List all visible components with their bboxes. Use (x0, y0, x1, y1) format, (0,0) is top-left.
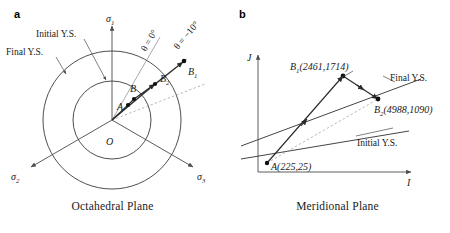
marker-point-a (265, 161, 269, 165)
octahedral-plane-diagram: σ1 σ2 σ3 O A B B1 B2 Initial Y.S. Final … (0, 0, 225, 210)
point-b1-label: B1 (188, 66, 198, 79)
initial-ys-label-a: Initial Y.S. (36, 29, 76, 39)
initial-ys-leader (84, 39, 106, 80)
final-ys-label-b: Final Y.S. (390, 73, 427, 83)
sigma-2-label: σ2 (11, 171, 20, 184)
reference-dotted-line (267, 99, 378, 163)
marker-point-b2 (153, 82, 157, 86)
i-axis-label: I (406, 177, 411, 188)
path-segment-a-b1 (267, 76, 343, 163)
j-axis-label: J (247, 52, 252, 63)
final-ys-leader (56, 57, 66, 74)
figure-container: a (0, 0, 450, 233)
path-segment-b-b2 (134, 84, 155, 99)
point-b2-label: B2 (160, 73, 170, 86)
panel-octahedral-plane: a (0, 0, 225, 233)
point-b1-coord-label: B1(2461,1714) (290, 61, 349, 74)
marker-point-b1 (182, 59, 187, 64)
marker-point-b (132, 97, 136, 101)
initial-ys-label-b: Initial Y.S. (357, 138, 397, 148)
caption-octahedral-plane: Octahedral Plane (0, 200, 225, 212)
theta-minus-ten-ray (112, 84, 205, 120)
theta-minus-ten-label: θ = −10° (172, 19, 201, 51)
point-a-coord-label: A(225,25) (270, 161, 312, 173)
caption-meridional-plane: Meridional Plane (225, 200, 450, 212)
final-ys-label-a: Final Y.S. (6, 47, 43, 57)
meridional-plane-diagram: J I B1(2461,1714) B2(4988,1090) A(225,25… (225, 0, 450, 210)
point-b2-coord-label: B2(4988,1090) (374, 104, 433, 117)
panel-meridional-plane: b (225, 0, 450, 233)
path-direction-tick-2 (357, 85, 364, 90)
origin-label: O (106, 136, 113, 147)
sigma-3-label: σ3 (197, 171, 206, 184)
sigma-1-label: σ1 (106, 13, 114, 26)
marker-point-a (126, 103, 130, 107)
point-a-label: A (116, 101, 124, 112)
point-b-label: B (130, 83, 136, 94)
marker-point-b2 (376, 97, 381, 102)
theta-zero-label: θ = 0° (139, 28, 159, 53)
